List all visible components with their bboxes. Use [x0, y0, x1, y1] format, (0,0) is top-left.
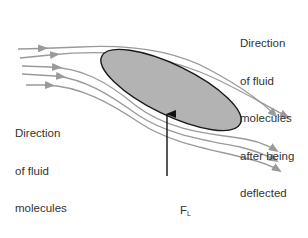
- label-line: of fluid: [240, 75, 294, 88]
- label-line: after being: [240, 150, 294, 163]
- label-line: of fluid: [15, 165, 79, 178]
- label-lift-force: FL (Lift force acting on object): [180, 179, 228, 238]
- label-line: molecules: [15, 202, 79, 215]
- label-after-deflection: Direction of fluid molecules after being…: [240, 12, 294, 212]
- lift-symbol-letter: F: [180, 204, 187, 216]
- lift-subscript: L: [187, 210, 191, 217]
- label-before-deflection: Direction of fluid molecules before bein…: [15, 102, 79, 238]
- label-line: Direction: [15, 127, 79, 140]
- lift-symbol: FL: [180, 204, 228, 221]
- label-line: Direction: [240, 37, 294, 50]
- label-line: molecules: [240, 112, 294, 125]
- label-line: deflected: [240, 187, 294, 200]
